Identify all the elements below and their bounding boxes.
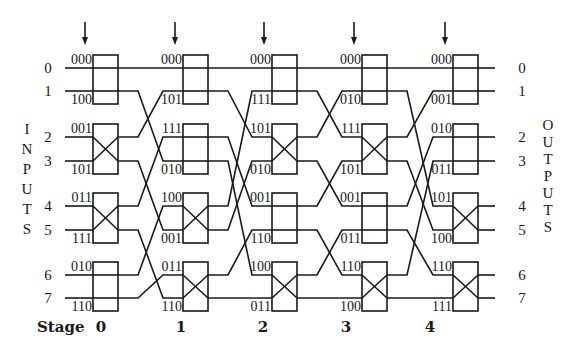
outputs-letter: O (543, 117, 554, 133)
switch-box-s3-2 (362, 193, 387, 243)
port-tag: 001 (161, 231, 182, 246)
inputs-letter: N (22, 141, 33, 157)
switch-box-s2-0 (272, 55, 297, 104)
input-number: 7 (44, 290, 52, 306)
port-tag: 000 (161, 52, 182, 67)
arrow-head-icon (442, 37, 448, 45)
switch-box-s1-1 (183, 124, 208, 174)
port-tag: 011 (251, 299, 271, 314)
port-tag: 111 (162, 121, 182, 136)
port-tag: 111 (251, 92, 271, 107)
port-tag: 011 (341, 231, 361, 246)
port-tag: 001 (340, 190, 361, 205)
outputs-letter: T (543, 151, 552, 167)
inputs-letter: P (23, 161, 31, 177)
port-tag: 111 (72, 231, 92, 246)
output-number: 0 (518, 60, 526, 76)
switch-box-s0-0 (93, 55, 118, 104)
inputs-letter: U (22, 181, 33, 197)
input-number: 2 (44, 129, 52, 145)
port-tag: 110 (341, 259, 361, 274)
link-wire (118, 275, 183, 298)
outputs-letter: U (543, 185, 554, 201)
port-tag: 100 (161, 190, 182, 205)
port-tag: 110 (162, 299, 182, 314)
port-tag: 111 (341, 121, 361, 136)
port-tag: 011 (72, 190, 92, 205)
stage-number: 2 (258, 318, 268, 336)
port-tag: 000 (431, 52, 452, 67)
arrow-head-icon (172, 37, 178, 45)
output-number: 5 (518, 222, 526, 238)
inputs-letter: I (25, 121, 30, 137)
port-tag: 101 (161, 92, 182, 107)
port-tag: 000 (340, 52, 361, 67)
output-number: 7 (518, 290, 526, 306)
input-number: 6 (44, 267, 52, 283)
port-tag: 111 (432, 299, 452, 314)
switch-box-s0-3 (93, 262, 118, 311)
arrow-head-icon (351, 37, 357, 45)
port-tag: 110 (432, 259, 452, 274)
switch-box-s4-0 (453, 55, 478, 104)
link-wire (208, 161, 272, 275)
port-tag: 000 (71, 52, 92, 67)
output-number: 4 (518, 198, 526, 214)
port-tag: 001 (431, 92, 452, 107)
arrow-head-icon (261, 37, 267, 45)
port-tag: 010 (71, 259, 92, 274)
input-number: 1 (44, 83, 52, 99)
port-tag: 100 (71, 92, 92, 107)
port-tag: 110 (72, 299, 92, 314)
switch-box-s2-2 (272, 193, 297, 243)
switch-boxes (93, 55, 478, 311)
port-tag: 001 (250, 190, 271, 205)
output-number: 2 (518, 129, 526, 145)
switch-box-s4-1 (453, 124, 478, 174)
output-number: 3 (518, 153, 526, 169)
outputs-letter: P (544, 168, 552, 184)
outputs-letter: T (543, 202, 552, 218)
port-tag: 101 (250, 121, 271, 136)
stage-number: 0 (96, 318, 106, 336)
port-tag: 010 (340, 92, 361, 107)
port-tag: 010 (250, 162, 271, 177)
port-tag: 010 (431, 121, 452, 136)
link-wire (208, 91, 272, 206)
inputs-letter: T (22, 201, 31, 217)
outputs-letter: U (543, 134, 554, 150)
port-tag: 101 (431, 190, 452, 205)
input-number: 0 (44, 60, 52, 76)
stage-number: 1 (176, 318, 186, 336)
switch-box-s3-0 (362, 55, 387, 104)
output-number: 1 (518, 83, 526, 99)
link-wire (387, 161, 453, 275)
outputs-letter: S (544, 219, 552, 235)
input-number: 4 (44, 198, 52, 214)
port-tag: 000 (250, 52, 271, 67)
port-tag: 010 (161, 162, 182, 177)
stage-number: 3 (341, 318, 351, 336)
port-tag: 100 (340, 299, 361, 314)
arrow-head-icon (82, 37, 88, 45)
port-tag: 101 (340, 162, 361, 177)
port-tag: 011 (432, 162, 452, 177)
port-tag: 011 (162, 259, 182, 274)
shuffle-exchange-network-diagram: 0001000011010111110101100001011110101000… (0, 0, 570, 355)
output-number: 6 (518, 267, 526, 283)
stage-number: 4 (425, 318, 435, 336)
port-tag: 100 (431, 231, 452, 246)
link-wire (387, 91, 453, 206)
port-tag: 101 (71, 162, 92, 177)
input-number: 3 (44, 153, 52, 169)
port-tag: 100 (250, 259, 271, 274)
input-number: 5 (44, 222, 52, 238)
stage-label: Stage (37, 318, 85, 336)
port-tag: 110 (251, 231, 271, 246)
inputs-letter: S (23, 221, 31, 237)
port-tag: 001 (71, 121, 92, 136)
switch-box-s1-0 (183, 55, 208, 104)
